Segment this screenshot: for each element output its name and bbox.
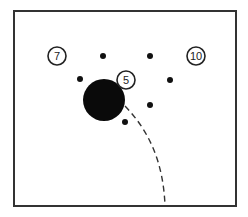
dot — [147, 53, 153, 59]
dot — [122, 119, 128, 125]
dot — [100, 53, 106, 59]
dot — [167, 77, 173, 83]
numbered-marker-7: 7 — [48, 47, 66, 65]
marker-label: 5 — [123, 74, 129, 86]
frame-border — [14, 11, 236, 206]
diagram-canvas: 7105 — [0, 0, 248, 217]
dot — [77, 76, 83, 82]
marker-label: 10 — [190, 50, 202, 62]
numbered-marker-5: 5 — [117, 71, 135, 89]
numbered-marker-10: 10 — [187, 47, 205, 65]
marker-label: 7 — [54, 50, 60, 62]
dot — [147, 102, 153, 108]
